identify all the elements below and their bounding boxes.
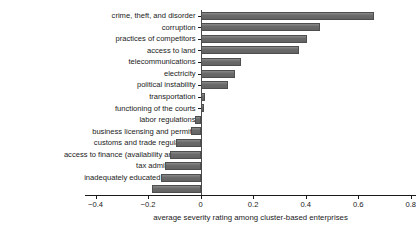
x-axis: −0.4−0.200.20.40.60.8 average severity r… — [85, 195, 416, 240]
category-label: functioning of the courts — [0, 103, 196, 115]
bar — [195, 116, 201, 124]
category-label: access to land — [0, 45, 196, 57]
x-tick — [148, 195, 149, 199]
bar-row: tax administration — [85, 160, 416, 172]
x-tick-label: −0.4 — [88, 200, 103, 209]
bar — [201, 58, 242, 66]
x-tick-label: 0.6 — [353, 200, 364, 209]
bar — [170, 151, 201, 159]
bar-row: labor regulations — [85, 114, 416, 126]
bar-row: access to finance (availability and cost… — [85, 149, 416, 161]
bar-row: corruption — [85, 22, 416, 34]
x-tick — [306, 195, 307, 199]
bar — [201, 23, 321, 31]
x-tick — [201, 195, 202, 199]
category-label: electricity — [0, 68, 196, 80]
plot-area: crime, theft, and disordercorruptionprac… — [85, 10, 416, 195]
category-label: access to finance (availability and cost… — [0, 149, 196, 161]
bar-row: business licensing and permits — [85, 126, 416, 138]
x-tick — [358, 195, 359, 199]
x-tick-label: 0 — [198, 200, 202, 209]
bar — [176, 139, 201, 147]
bar — [201, 46, 300, 54]
x-axis-label: average severity rating among cluster-ba… — [85, 213, 416, 222]
category-label: transportation — [0, 91, 196, 103]
x-tick-label: 0.2 — [248, 200, 259, 209]
bar-row: telecommunications — [85, 56, 416, 68]
category-label: business licensing and permits — [0, 126, 196, 138]
bar — [201, 81, 228, 89]
bar-row: functioning of the courts — [85, 103, 416, 115]
bar — [191, 127, 201, 135]
bar-row: political instability — [85, 79, 416, 91]
bar-row: inadequately educated workforce — [85, 172, 416, 184]
category-label: customs and trade regulations — [0, 137, 196, 149]
bar — [201, 70, 235, 78]
x-tick — [411, 195, 412, 199]
bar — [165, 162, 201, 170]
bar-row: transportation — [85, 91, 416, 103]
category-label: practices of competitors — [0, 33, 196, 45]
bar-chart: crime, theft, and disordercorruptionprac… — [0, 0, 418, 240]
x-tick-label: 0.8 — [405, 200, 416, 209]
category-label: labor regulations — [0, 114, 196, 126]
bar — [201, 12, 374, 20]
bar-row: practices of competitors — [85, 33, 416, 45]
x-tick — [253, 195, 254, 199]
category-label: political instability — [0, 79, 196, 91]
bar-row: access to land — [85, 45, 416, 57]
bar — [161, 174, 201, 182]
bar — [201, 35, 307, 43]
category-label: crime, theft, and disorder — [0, 10, 196, 22]
x-tick-label: 0.4 — [300, 200, 311, 209]
category-label: corruption — [0, 22, 196, 34]
bar — [201, 104, 204, 112]
bar-row: electricity — [85, 68, 416, 80]
x-tick-label: −0.2 — [141, 200, 156, 209]
bar — [201, 93, 205, 101]
x-tick — [96, 195, 97, 199]
bar — [152, 185, 201, 193]
bar-row: crime, theft, and disorder — [85, 10, 416, 22]
category-label: telecommunications — [0, 56, 196, 68]
bar-row: customs and trade regulations — [85, 137, 416, 149]
bar-row: tax rates — [85, 183, 416, 195]
